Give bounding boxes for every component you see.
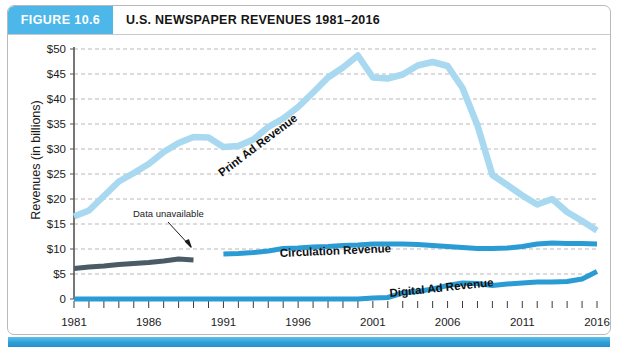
x-tick-label: 2011 xyxy=(510,316,535,328)
figure-header: FIGURE 10.6 U.S. NEWSPAPER REVENUES 1981… xyxy=(8,6,610,35)
y-tick-label: $20 xyxy=(47,193,66,205)
series-label: Circulation Revenue xyxy=(280,242,392,259)
footer-accent-bar xyxy=(8,337,610,347)
y-tick-label: $5 xyxy=(53,268,66,280)
y-tick-label: $30 xyxy=(47,143,66,155)
x-tick-label: 2001 xyxy=(360,316,386,328)
figure-title: U.S. NEWSPAPER REVENUES 1981–2016 xyxy=(126,6,380,34)
series-label: Digital Ad Revenue xyxy=(389,276,494,299)
x-tick-label: 2006 xyxy=(435,316,461,328)
y-axis-label: Revenues (in billions) xyxy=(29,70,43,250)
figure-number-badge: FIGURE 10.6 xyxy=(8,6,113,34)
y-tick-label: $15 xyxy=(47,218,66,230)
x-tick-label: 1986 xyxy=(136,316,162,328)
revenue-line-chart: $50$45$40$35$30$25$20$15$10$501981198619… xyxy=(8,35,611,335)
annotation-label: Data unavailable xyxy=(133,208,204,219)
chart-plot-area: Revenues (in billions) $50$45$40$35$30$2… xyxy=(8,35,611,335)
y-tick-label: $25 xyxy=(47,168,66,180)
y-tick-label: $10 xyxy=(47,243,66,255)
series-line xyxy=(74,272,597,300)
x-tick-label: 1991 xyxy=(211,316,237,328)
x-tick-label: 2016 xyxy=(584,316,610,328)
y-tick-label: $45 xyxy=(47,68,66,80)
y-tick-label: $50 xyxy=(47,43,66,55)
y-tick-label: 0 xyxy=(60,293,66,305)
x-tick-label: 1996 xyxy=(285,316,311,328)
figure-card: FIGURE 10.6 U.S. NEWSPAPER REVENUES 1981… xyxy=(7,5,611,335)
series-line xyxy=(74,56,597,231)
x-tick-label: 1981 xyxy=(61,316,87,328)
y-tick-label: $40 xyxy=(47,93,66,105)
series-line xyxy=(74,259,194,269)
annotation-arrowhead xyxy=(186,240,192,247)
y-tick-label: $35 xyxy=(47,118,66,130)
